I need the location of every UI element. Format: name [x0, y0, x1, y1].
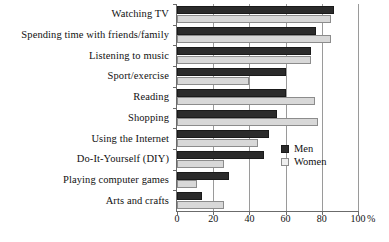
category-label-1: Spending time with friends/family — [21, 29, 169, 40]
category-label-0: Watching TV — [111, 8, 169, 19]
y-tick-7 — [173, 149, 177, 150]
bar-men-4 — [177, 89, 286, 97]
category-label-4: Reading — [133, 91, 169, 102]
y-tick-6 — [173, 128, 177, 129]
category-label-5: Shopping — [128, 112, 169, 123]
x-tick-label-20: 20 — [208, 213, 218, 224]
x-tick-label-40: 40 — [244, 213, 254, 224]
gridline-100 — [358, 4, 359, 211]
category-label-6: Using the Internet — [91, 133, 169, 144]
bar-men-2 — [177, 47, 311, 55]
bar-women-7 — [177, 160, 224, 168]
category-label-9: Arts and crafts — [106, 195, 169, 206]
bar-men-1 — [177, 27, 316, 35]
category-label-7: Do-It-Yourself (DIY) — [77, 153, 169, 164]
bar-women-8 — [177, 180, 197, 188]
bar-men-5 — [177, 110, 277, 118]
bar-women-5 — [177, 118, 318, 126]
bar-women-0 — [177, 15, 331, 23]
legend-item-men: Men — [281, 142, 351, 155]
bar-women-1 — [177, 35, 331, 43]
bar-women-9 — [177, 201, 224, 209]
y-tick-3 — [173, 66, 177, 67]
x-tick-label-60: 60 — [281, 213, 291, 224]
bar-women-3 — [177, 77, 249, 85]
category-label-3: Sport/exercise — [108, 70, 169, 81]
bar-men-3 — [177, 68, 286, 76]
legend-swatch-women-icon — [281, 158, 289, 166]
bar-women-2 — [177, 56, 311, 64]
bar-chart: Watching TVSpending time with friends/fa… — [0, 0, 389, 242]
chart-legend: MenWomen — [281, 142, 351, 168]
x-axis-unit-label: % — [367, 213, 375, 224]
category-axis-labels: Watching TVSpending time with friends/fa… — [0, 0, 173, 211]
bar-men-8 — [177, 172, 229, 180]
x-tick-label-0: 0 — [175, 213, 180, 224]
x-tick-label-80: 80 — [317, 213, 327, 224]
category-label-2: Listening to music — [89, 50, 169, 61]
bar-men-6 — [177, 130, 269, 138]
x-axis-line — [176, 211, 358, 212]
y-tick-2 — [173, 45, 177, 46]
bar-men-9 — [177, 192, 202, 200]
bar-women-6 — [177, 139, 258, 147]
x-tick-label-100: 100 — [351, 213, 366, 224]
legend-swatch-men-icon — [281, 145, 289, 153]
y-tick-4 — [173, 87, 177, 88]
y-tick-9 — [173, 190, 177, 191]
bar-men-7 — [177, 151, 264, 159]
plot-area — [177, 4, 358, 211]
bar-women-4 — [177, 97, 315, 105]
legend-item-women: Women — [281, 155, 351, 168]
y-tick-0 — [173, 4, 177, 5]
legend-label-men: Men — [294, 143, 313, 154]
bar-men-0 — [177, 6, 334, 14]
category-label-8: Playing computer games — [63, 174, 169, 185]
legend-label-women: Women — [294, 156, 326, 167]
